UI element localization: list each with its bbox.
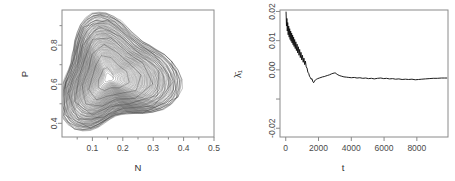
- x-tick-label: 4000: [342, 143, 361, 153]
- y-tick-label: -0.02: [267, 118, 277, 138]
- trajectory-path: [59, 12, 183, 131]
- y-tick-label: 0.8: [49, 39, 59, 51]
- x-tick-label: 0: [283, 143, 288, 153]
- x-tick-label: 0.1: [86, 143, 98, 153]
- x-axis-label: N: [135, 162, 142, 173]
- y-tick-label: 0.02: [267, 3, 277, 20]
- y-tick-label: 0.00: [267, 61, 277, 78]
- x-tick-label: 0.5: [208, 143, 220, 153]
- lyapunov-panel: 020004000600080000.020.010.00-0.02 t λ̄₁: [228, 0, 455, 181]
- lyapunov-series-path: [286, 12, 447, 83]
- x-tick-label: 0.2: [117, 143, 129, 153]
- x-tick-label: 0.4: [178, 143, 190, 153]
- y-tick-label: 0.4: [49, 117, 59, 129]
- y-axis-label: P: [19, 71, 30, 77]
- x-axis-label: t: [342, 162, 345, 173]
- y-tick-label: 0.6: [49, 78, 59, 90]
- figure-panel-pair: 0.10.20.30.40.50.40.60.8 N P 02000400060…: [0, 0, 455, 181]
- x-tick-label: 6000: [375, 143, 394, 153]
- phase-portrait-axes: 0.10.20.30.40.50.40.60.8: [49, 10, 220, 153]
- series-group: [286, 12, 447, 83]
- phase-portrait-svg: 0.10.20.30.40.50.40.60.8 N P: [0, 0, 228, 181]
- attractor-orbit-group: [59, 12, 183, 131]
- y-axis-label: λ̄₁: [232, 70, 243, 78]
- x-tick-label: 2000: [309, 143, 328, 153]
- x-tick-label: 8000: [407, 143, 426, 153]
- x-tick-label: 0.3: [147, 143, 159, 153]
- y-tick-label: 0.01: [267, 32, 277, 49]
- lyapunov-svg: 020004000600080000.020.010.00-0.02 t λ̄₁: [228, 0, 455, 181]
- lyapunov-plot-area: [286, 12, 447, 83]
- phase-portrait-plot-area: [59, 12, 183, 131]
- phase-portrait-panel: 0.10.20.30.40.50.40.60.8 N P: [0, 0, 228, 181]
